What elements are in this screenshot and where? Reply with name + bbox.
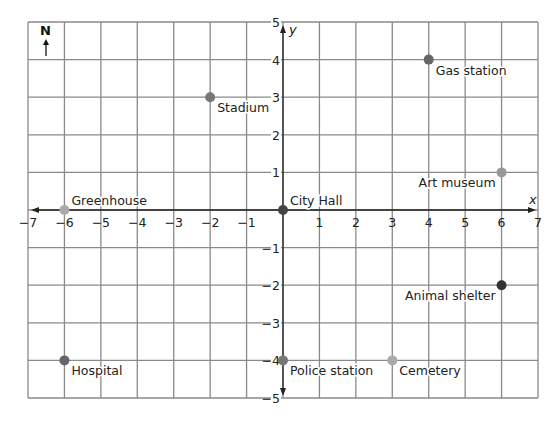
x-axis-label: x [528,192,537,207]
y-tick-label: 1 [272,165,280,180]
x-tick-label: 7 [534,215,542,230]
x-tick-label: 4 [425,215,433,230]
map-point-marker [59,205,69,215]
x-tick-label: 1 [315,215,323,230]
map-point-marker [424,55,434,65]
y-tick-label: −4 [262,353,280,368]
map-point-marker [278,355,288,365]
y-tick-label: 4 [272,53,280,68]
map-point-label: Stadium [217,100,269,115]
coordinate-grid-map: xy −7−6−5−4−3−2−1123456754321−1−2−3−4−5 … [0,0,557,424]
y-axis-label: y [288,22,297,37]
x-tick-label: −5 [92,215,110,230]
north-label: N [40,23,51,38]
x-tick-label: 6 [498,215,506,230]
map-point-label: Gas station [436,63,507,78]
north-compass: N [40,23,51,56]
map-point-label: Greenhouse [71,193,147,208]
map-point-label: Hospital [71,363,122,378]
x-tick-label: −7 [19,215,37,230]
x-tick-label: 3 [388,215,396,230]
x-axis-left-arrow-icon [31,207,39,213]
y-tick-label: 5 [272,15,280,30]
y-tick-label: −1 [262,241,280,256]
x-tick-label: −4 [128,215,146,230]
map-point-marker [59,355,69,365]
y-tick-label: −3 [262,316,280,331]
map-point-label: Cemetery [399,363,461,378]
map-point-marker [497,280,507,290]
y-tick-label: −2 [262,278,280,293]
map-point-label: Police station [290,363,373,378]
north-arrowhead-icon [43,39,49,45]
x-tick-label: 5 [461,215,469,230]
x-tick-label: −1 [237,215,255,230]
map-point-marker [278,205,288,215]
map-point-marker [387,355,397,365]
x-tick-label: −6 [55,215,73,230]
map-point-label: Art museum [419,175,496,190]
y-tick-label: 3 [272,90,280,105]
map-point-label: City Hall [290,193,342,208]
y-tick-label: −5 [262,391,280,406]
x-tick-label: −2 [201,215,219,230]
x-tick-label: −3 [164,215,182,230]
map-point-label: Animal shelter [405,288,496,303]
y-tick-label: 2 [272,128,280,143]
map-point-marker [205,92,215,102]
x-axis-right-arrow-icon [528,207,536,213]
x-tick-label: 2 [352,215,360,230]
map-point-marker [497,167,507,177]
